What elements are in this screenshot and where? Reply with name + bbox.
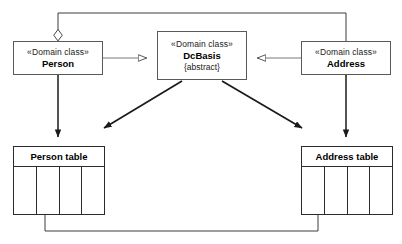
class-name-address: Address [327,58,365,70]
table-title-person-table: Person table [14,147,104,167]
table-column [60,167,83,215]
connector-dcbasis-maps-to-person-table [104,81,182,128]
class-box-person[interactable]: «Domain class» Person [13,41,103,75]
table-column [82,167,104,215]
table-column [348,167,371,215]
table-column [325,167,348,215]
class-stereotype-person: «Domain class» [27,47,89,58]
uml-diagram-canvas: «Domain class» Person «Domain class» DcB… [0,0,402,244]
class-box-address[interactable]: «Domain class» Address [301,41,391,75]
class-stereotype-address: «Domain class» [315,47,377,58]
class-box-dcbasis[interactable]: «Domain class» DcBasis {abstract} [157,31,247,80]
table-column [370,167,392,215]
table-columns-person-table [14,167,104,215]
class-name-dcbasis: DcBasis [183,50,221,62]
table-column [14,167,37,215]
table-box-person-table[interactable]: Person table [13,146,105,215]
table-column [302,167,325,215]
table-columns-address-table [302,167,392,215]
aggregation-diamond-icon [54,30,63,41]
class-property-dcbasis: {abstract} [184,62,220,73]
table-title-address-table: Address table [302,147,392,167]
table-box-address-table[interactable]: Address table [301,146,393,215]
table-column [37,167,60,215]
class-name-person: Person [42,58,74,70]
connector-dcbasis-maps-to-address-table [222,81,302,128]
class-stereotype-dcbasis: «Domain class» [171,39,233,50]
